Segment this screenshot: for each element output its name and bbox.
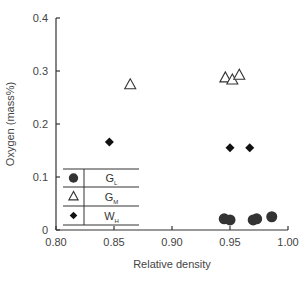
data-points	[105, 69, 277, 225]
triangle-marker	[234, 69, 245, 79]
x-tick-label: 0.90	[161, 236, 182, 248]
circle-marker	[251, 213, 262, 224]
circle-marker	[225, 214, 236, 225]
legend: GLGMWH	[63, 169, 139, 225]
y-tick-label: 0.1	[33, 171, 48, 183]
x-tick-label: 0.80	[45, 236, 66, 248]
triangle-marker	[125, 79, 136, 89]
series-GM	[125, 69, 245, 89]
series-WH	[105, 138, 254, 153]
diamond-marker	[105, 138, 114, 147]
scatter-chart: 00.10.20.30.40.800.850.900.951.00 GLGMWH…	[0, 0, 308, 281]
diamond-marker	[226, 143, 235, 152]
diamond-marker	[70, 212, 78, 220]
y-tick-label: 0.4	[33, 12, 48, 24]
series-GL	[219, 211, 278, 225]
circle-marker	[266, 211, 277, 222]
x-tick-label: 0.85	[103, 236, 124, 248]
legend-label: WH	[104, 210, 119, 224]
diamond-marker	[245, 143, 254, 152]
y-tick-label: 0.3	[33, 65, 48, 77]
y-axis-label: Oxygen (mass%)	[4, 82, 16, 166]
y-tick-label: 0.2	[33, 118, 48, 130]
x-tick-label: 0.95	[219, 236, 240, 248]
x-tick-label: 1.00	[277, 236, 298, 248]
legend-label: GL	[106, 172, 119, 186]
legend-label: GM	[105, 191, 119, 205]
circle-marker	[69, 173, 78, 182]
y-tick-label: 0	[42, 224, 48, 236]
triangle-marker	[69, 191, 78, 200]
x-axis-label: Relative density	[133, 258, 211, 270]
